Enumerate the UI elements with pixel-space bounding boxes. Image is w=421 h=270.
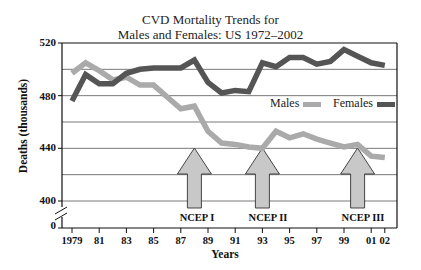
x-tick-85: 85 (139, 235, 169, 246)
annotation-ncep-3: NCEP III (328, 212, 398, 223)
legend-females: Females (333, 96, 395, 111)
legend-males-swatch (303, 102, 321, 107)
x-tick-83: 83 (111, 235, 141, 246)
legend-females-swatch (377, 102, 395, 107)
annotation-ncep-2: NCEP II (233, 212, 303, 223)
y-tick-440: 440 (26, 141, 56, 153)
x-tick-91: 91 (220, 235, 250, 246)
x-tick-93: 93 (247, 235, 277, 246)
y-tick-520: 520 (26, 36, 56, 48)
x-tick-89: 89 (193, 235, 223, 246)
ncep-arrow (177, 148, 211, 208)
x-tick-1979: 1979 (57, 235, 87, 246)
y-tick-400: 400 (26, 194, 56, 206)
x-tick-02: 02 (370, 235, 400, 246)
annotation-ncep-1: NCEP I (162, 212, 232, 223)
y-axis-title: Deaths (thousands) (17, 61, 29, 191)
legend-males: Males (270, 96, 321, 111)
line-chart (0, 0, 421, 270)
ncep-arrow (245, 148, 279, 208)
x-axis-title: Years (200, 248, 250, 260)
x-tick-95: 95 (275, 235, 305, 246)
y-tick-480: 480 (26, 90, 56, 102)
legend-females-label: Females (333, 96, 373, 110)
y-tick-0: 0 (26, 219, 56, 231)
x-tick-97: 97 (302, 235, 332, 246)
x-tick-87: 87 (166, 235, 196, 246)
x-tick-99: 99 (329, 235, 359, 246)
legend-males-label: Males (270, 96, 299, 110)
x-tick-81: 81 (84, 235, 114, 246)
series-females (72, 50, 385, 101)
